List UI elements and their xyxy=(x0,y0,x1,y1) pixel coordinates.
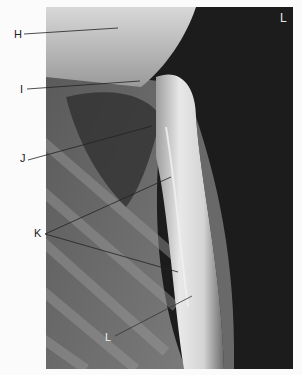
label-h: H xyxy=(14,29,22,40)
leader-line-i xyxy=(27,81,140,89)
label-k: K xyxy=(34,228,41,239)
label-j: J xyxy=(20,153,26,164)
leader-line-j xyxy=(28,126,152,160)
label-i: I xyxy=(20,84,23,95)
leader-line-h xyxy=(24,28,118,34)
side-marker: L xyxy=(280,12,287,24)
leader-line-k-lower xyxy=(45,234,178,272)
leader-line-l xyxy=(115,296,192,336)
label-l: L xyxy=(105,332,111,343)
leader-line-k-upper xyxy=(45,177,171,234)
label-lines xyxy=(0,0,302,375)
